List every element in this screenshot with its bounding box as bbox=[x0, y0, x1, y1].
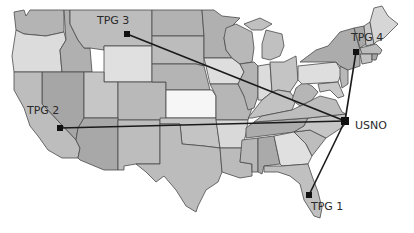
state-washington bbox=[14, 10, 64, 36]
tpg1-marker-icon[interactable] bbox=[306, 192, 312, 198]
tpg3-label: TPG 3 bbox=[96, 14, 129, 27]
state-oregon bbox=[12, 30, 66, 72]
tpg4-marker-icon[interactable] bbox=[353, 49, 359, 55]
state-ohio bbox=[270, 56, 298, 92]
us-map: USNO TPG 1 TPG 2 TPG 3 TPG 4 bbox=[0, 0, 414, 233]
state-rhode-island bbox=[372, 54, 378, 60]
state-michigan-up bbox=[244, 18, 272, 30]
states-layer bbox=[12, 6, 398, 218]
tpg2-marker-icon[interactable] bbox=[57, 125, 63, 131]
state-arizona bbox=[76, 118, 118, 170]
tpg3-marker-icon[interactable] bbox=[124, 31, 130, 37]
tpg1-label: TPG 1 bbox=[310, 200, 343, 213]
state-maryland bbox=[318, 82, 344, 98]
state-wyoming bbox=[104, 46, 152, 82]
state-north-dakota bbox=[152, 10, 204, 36]
state-kansas bbox=[166, 90, 216, 118]
state-new-mexico bbox=[118, 120, 160, 170]
tpg2-label: TPG 2 bbox=[26, 104, 59, 117]
usno-label: USNO bbox=[355, 119, 387, 132]
state-pennsylvania bbox=[298, 62, 342, 84]
usno-marker-icon[interactable] bbox=[341, 117, 349, 125]
state-colorado bbox=[118, 82, 166, 120]
tpg4-label: TPG 4 bbox=[350, 31, 383, 44]
state-connecticut bbox=[360, 54, 372, 64]
state-michigan bbox=[262, 30, 284, 60]
